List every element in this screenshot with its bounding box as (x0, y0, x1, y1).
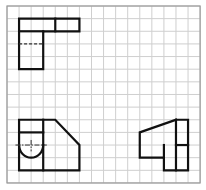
grid-diagram (0, 0, 206, 190)
